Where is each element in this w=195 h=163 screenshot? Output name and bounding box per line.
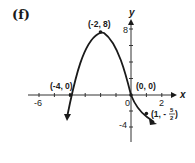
- point-vertex: [99, 30, 103, 34]
- point-origin: [129, 93, 133, 97]
- point-left: [69, 93, 73, 97]
- curve: [68, 32, 155, 122]
- curve-arrow-left-icon: [64, 114, 71, 121]
- graph-figure: (f): [0, 0, 195, 163]
- label-origin: (0, 0): [136, 81, 156, 91]
- x-axis-label: x: [179, 89, 186, 100]
- tick-label-neg4: -4: [119, 120, 127, 130]
- point-right: [145, 112, 149, 116]
- tick-label-8: 8: [123, 25, 128, 35]
- label-right: (1, - 5 2 ): [151, 107, 178, 121]
- curve-arrow-right-icon: [149, 119, 157, 125]
- label-vertex: (-2, 8): [88, 19, 111, 29]
- tick-label-neg6: -6: [34, 98, 42, 108]
- tick-label-0: 0: [125, 98, 130, 108]
- label-left: (-4, 0): [50, 81, 73, 91]
- y-axis-label: y: [128, 7, 135, 18]
- svg-text:5: 5: [170, 107, 174, 113]
- svg-text:): ): [175, 109, 178, 119]
- svg-text:2: 2: [170, 115, 174, 121]
- svg-text:(1, -: (1, -: [151, 109, 166, 119]
- chart-svg: -6 0 2 8 -4 x y (-2, 8) (-4, 0) (0, 0) (…: [0, 0, 195, 163]
- tick-label-2: 2: [159, 98, 164, 108]
- panel-label: (f): [12, 7, 30, 22]
